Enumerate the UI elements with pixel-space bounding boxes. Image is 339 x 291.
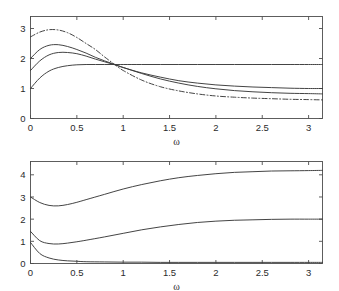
x-tick-label: 0 [28, 267, 33, 278]
x-tick-label: 1 [121, 267, 126, 278]
x-tick-label: 0.5 [70, 122, 83, 133]
y-tick-label: 2 [20, 214, 25, 225]
x-tick-label: 3 [306, 122, 311, 133]
chart-panel-top: 00.511.522.530123ω [0, 0, 339, 146]
y-tick-label: 2 [20, 53, 25, 64]
chart-bottom-svg: 00.511.522.5301234ω [0, 145, 339, 291]
x-tick-label: 1.5 [163, 267, 176, 278]
y-tick-label: 3 [20, 192, 25, 203]
chart-top-svg: 00.511.522.530123ω [0, 0, 339, 146]
y-tick-label: 0 [20, 113, 25, 124]
x-tick-label: 3 [306, 267, 311, 278]
x-tick-label: 2.5 [256, 122, 269, 133]
data-curve-curve-4-solid [31, 64, 323, 88]
x-tick-label: 2.5 [256, 267, 269, 278]
x-tick-label: 1.5 [163, 122, 176, 133]
data-curve-curve-1-solid [31, 170, 323, 206]
y-tick-label: 4 [20, 169, 25, 180]
x-tick-label: 2 [213, 122, 218, 133]
x-tick-label: 0 [28, 122, 33, 133]
x-tick-label: 1 [121, 122, 126, 133]
y-tick-label: 0 [20, 258, 25, 269]
y-tick-label: 3 [20, 23, 25, 34]
x-axis-label: ω [173, 281, 180, 291]
y-tick-label: 1 [20, 236, 25, 247]
x-tick-label: 2 [213, 267, 218, 278]
plot-frame [31, 162, 323, 264]
data-curve-curve-2-solid [31, 45, 323, 89]
y-tick-label: 1 [20, 83, 25, 94]
plot-frame [31, 17, 323, 119]
figure-container: 00.511.522.530123ω 00.511.522.5301234ω [0, 0, 339, 291]
data-curve-curve-2-solid [31, 219, 323, 244]
x-tick-label: 0.5 [70, 267, 83, 278]
chart-panel-bottom: 00.511.522.5301234ω [0, 145, 339, 291]
data-curve-curve-3-solid [31, 242, 323, 262]
